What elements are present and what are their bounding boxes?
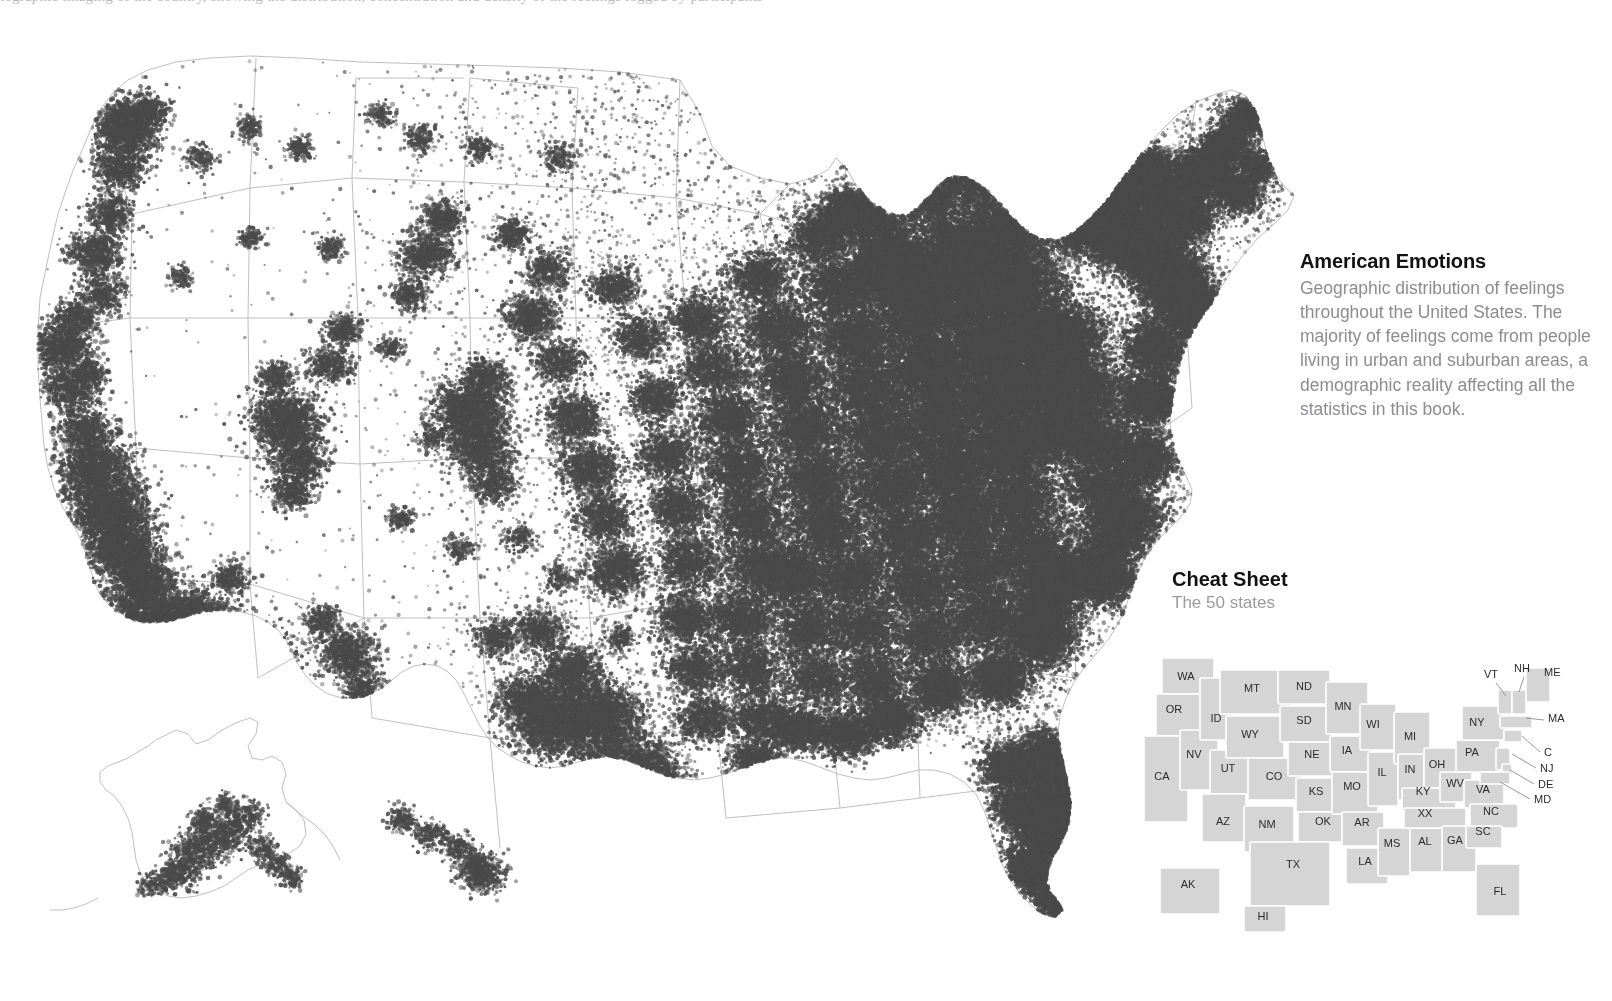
- cheat-sheet-map: WAORIDMTNDSDMNWIMIWYNVCAUTCONEIAILINOHPA…: [1140, 630, 1612, 960]
- cheat-label-or: OR: [1166, 703, 1183, 715]
- cheat-label-ks: KS: [1309, 785, 1324, 797]
- cheat-label-nd: ND: [1296, 680, 1312, 692]
- feeling-dots-layer: [0, 18, 1320, 978]
- cheat-label-ne: NE: [1304, 748, 1319, 760]
- cheat-leader-de: [1510, 770, 1534, 784]
- cheat-label-ny: NY: [1469, 716, 1485, 728]
- cheat-sheet-block: Cheat Sheet The 50 states: [1172, 568, 1612, 613]
- cheat-label-mi: MI: [1404, 730, 1416, 742]
- cheat-label-va: VA: [1476, 783, 1491, 795]
- cheat-label-sc: SC: [1475, 825, 1490, 837]
- cheat-label-ga: GA: [1447, 834, 1464, 846]
- cheat-state-nh: [1512, 690, 1526, 714]
- cheat-label-oh: OH: [1429, 758, 1446, 770]
- cheat-label-co: CO: [1266, 770, 1283, 782]
- cheat-label-nv: NV: [1186, 748, 1202, 760]
- cheat-leader-c: [1522, 736, 1540, 752]
- cheat-label-ok: OK: [1315, 815, 1332, 827]
- poster-page: tographic imaging of the country, showin…: [0, 0, 1612, 1001]
- cheat-subtitle: The 50 states: [1172, 593, 1612, 613]
- american-emotions-block: American Emotions Geographic distributio…: [1300, 250, 1600, 421]
- cheat-label-ia: IA: [1342, 744, 1353, 756]
- cheat-leader-nj: [1512, 754, 1536, 768]
- cheat-label-fl: FL: [1494, 885, 1507, 897]
- cheat-state-vt: [1498, 690, 1512, 714]
- cheat-label-mn: MN: [1334, 700, 1351, 712]
- cheat-state-ms: [1378, 828, 1410, 876]
- cheat-label-wi: WI: [1366, 718, 1379, 730]
- cheat-label-xx: XX: [1418, 807, 1433, 819]
- top-caption: tographic imaging of the country, showin…: [0, 0, 1612, 6]
- cheat-label-nj: NJ: [1540, 762, 1553, 774]
- cheat-label-la: LA: [1358, 855, 1372, 867]
- cheat-label-ak: AK: [1181, 878, 1196, 890]
- cheat-label-mo: MO: [1343, 780, 1361, 792]
- cheat-label-sd: SD: [1296, 714, 1311, 726]
- cheat-label-pa: PA: [1465, 746, 1480, 758]
- cheat-label-in: IN: [1405, 763, 1416, 775]
- cheat-state-ct: [1504, 730, 1522, 742]
- dot-density-map: [0, 18, 1320, 978]
- cheat-sheet-svg: WAORIDMTNDSDMNWIMIWYNVCAUTCONEIAILINOHPA…: [1140, 630, 1612, 960]
- cheat-label-mt: MT: [1244, 682, 1260, 694]
- cheat-state-tx: [1250, 842, 1330, 906]
- cheat-label-ca: CA: [1154, 770, 1170, 782]
- cheat-label-az: AZ: [1216, 815, 1230, 827]
- cheat-label-wv: WV: [1446, 777, 1464, 789]
- cheat-label-il: IL: [1377, 766, 1386, 778]
- cheat-state-ak: [1160, 868, 1220, 914]
- cheat-label-ky: KY: [1416, 785, 1431, 797]
- cheat-state-tn: [1404, 808, 1466, 828]
- cheat-label-nc: NC: [1483, 805, 1499, 817]
- side-title: American Emotions: [1300, 250, 1600, 273]
- cheat-label-id: ID: [1211, 712, 1222, 724]
- cheat-title: Cheat Sheet: [1172, 568, 1612, 591]
- cheat-label-ma: MA: [1548, 712, 1565, 724]
- cheat-label-md: MD: [1534, 793, 1551, 805]
- cheat-label-nh: NH: [1514, 662, 1530, 674]
- cheat-label-wy: WY: [1241, 728, 1259, 740]
- cheat-label-me: ME: [1544, 666, 1561, 678]
- cheat-label-de: DE: [1538, 778, 1553, 790]
- cheat-label-nm: NM: [1258, 818, 1275, 830]
- cheat-label-wa: WA: [1177, 670, 1195, 682]
- cheat-label-tx: TX: [1286, 858, 1301, 870]
- side-body: Geographic distribution of feelings thro…: [1300, 276, 1600, 421]
- cheat-label-ar: AR: [1354, 816, 1369, 828]
- cheat-label-hi: HI: [1258, 910, 1269, 922]
- cheat-label-c: C: [1544, 746, 1552, 758]
- cheat-label-ms: MS: [1384, 837, 1401, 849]
- cheat-label-ut: UT: [1221, 762, 1236, 774]
- cheat-label-vt: VT: [1484, 668, 1498, 680]
- cheat-label-al: AL: [1418, 835, 1431, 847]
